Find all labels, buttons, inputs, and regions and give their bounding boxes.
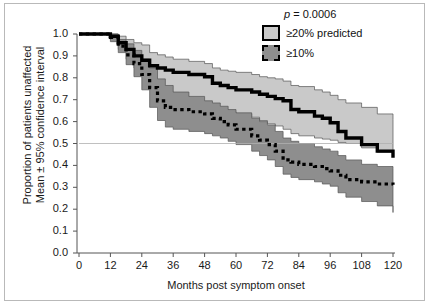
legend-item-0: ≥20% predicted — [262, 25, 412, 41]
x-tick-label: 108 — [347, 259, 377, 271]
y-tick-label: 0.1 — [42, 224, 68, 236]
y-tick-label: 0.9 — [42, 49, 68, 61]
x-tick-label: 96 — [315, 259, 345, 271]
x-tick-label: 84 — [284, 259, 314, 271]
survival-chart-figure: Proportion of patients unaffected Mean ±… — [0, 0, 429, 305]
x-tick-label: 120 — [378, 259, 408, 271]
y-tick-label: 0.0 — [42, 246, 68, 258]
y-tick-label: 0.4 — [42, 158, 68, 170]
legend-item-1: ≥10% — [262, 45, 412, 61]
x-tick-label: 0 — [64, 259, 94, 271]
x-tick-label: 24 — [127, 259, 157, 271]
y-tick-label: 0.7 — [42, 93, 68, 105]
p-value-annotation: p = 0.0006 — [284, 8, 412, 20]
x-tick-label: 12 — [95, 259, 125, 271]
legend-label-1: ≥10% — [286, 47, 314, 59]
x-tick-label: 72 — [252, 259, 282, 271]
y-tick-label: 0.2 — [42, 202, 68, 214]
x-tick-label: 60 — [221, 259, 251, 271]
legend-swatch-light-icon — [262, 25, 280, 41]
x-axis-title: Months post symptom onset — [77, 279, 395, 291]
x-tick-label: 48 — [190, 259, 220, 271]
y-tick-label: 0.8 — [42, 71, 68, 83]
y-tick-label: 0.6 — [42, 115, 68, 127]
y-tick-label: 1.0 — [42, 27, 68, 39]
legend-swatch-dark-icon — [262, 45, 280, 61]
y-tick-label: 0.3 — [42, 180, 68, 192]
y-tick-label: 0.5 — [42, 137, 68, 149]
legend-label-0: ≥20% predicted — [286, 27, 362, 39]
chart-legend: p = 0.0006 ≥20% predicted ≥10% — [262, 8, 412, 65]
x-tick-label: 36 — [158, 259, 188, 271]
